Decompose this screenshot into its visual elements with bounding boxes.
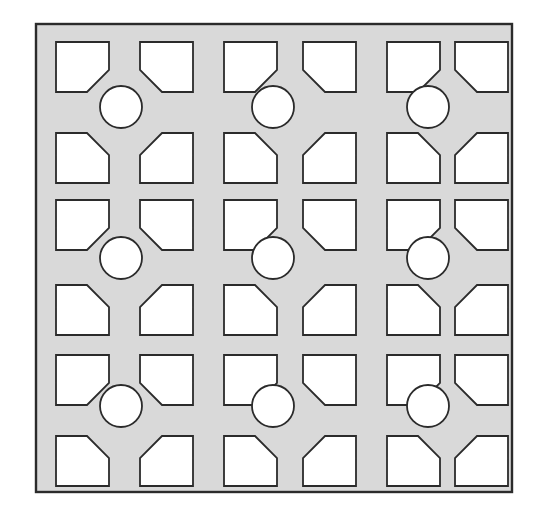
round-hole-r1-c3 (407, 86, 449, 128)
round-hole-r3-c2 (252, 385, 294, 427)
figure-canvas (0, 0, 548, 516)
round-hole-r3-c3 (407, 385, 449, 427)
round-hole-r2-c2 (252, 237, 294, 279)
round-hole-r1-c1 (100, 86, 142, 128)
round-hole-r2-c1 (100, 237, 142, 279)
round-hole-r2-c3 (407, 237, 449, 279)
round-hole-r1-c2 (252, 86, 294, 128)
round-hole-r3-c1 (100, 385, 142, 427)
perforated-panel-diagram (0, 0, 548, 516)
